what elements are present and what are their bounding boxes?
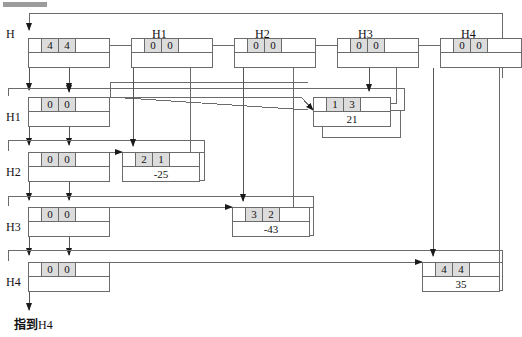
header-H3-i-cell: 0 — [351, 39, 368, 52]
header-H4-lower-row — [440, 53, 522, 68]
left-H2-lower-cell — [29, 167, 109, 181]
data-node-1-3[interactable]: 1 3 21 — [313, 97, 391, 127]
data-node-3-2[interactable]: 3 2 -43 — [232, 207, 310, 237]
left-node-H3[interactable]: 0 0 — [28, 207, 110, 237]
header-node-H1[interactable]: 0 0 — [131, 38, 213, 68]
data-3-2-tail-cell — [280, 208, 309, 221]
left-H3-j-cell: 0 — [59, 208, 76, 221]
header-H1-tail-cell — [179, 39, 212, 52]
header-node-H2[interactable]: 0 0 — [234, 38, 316, 68]
data-3-2-ptr-cell — [233, 208, 246, 221]
data-node-4-4-row: 4 4 — [422, 262, 500, 277]
header-H3-j-cell: 0 — [368, 39, 385, 52]
left-node-H2-row: 0 0 — [28, 152, 110, 167]
left-H2-j-cell: 0 — [59, 153, 76, 166]
header-H-ptr-cell — [29, 39, 42, 52]
header-H2-ptr-cell — [235, 39, 248, 52]
header-H3-tail-cell — [385, 39, 418, 52]
header-node-H4[interactable]: 0 0 — [440, 38, 522, 68]
bottom-label-cn: 指到 — [14, 318, 38, 332]
left-H4-lower-cell — [29, 277, 109, 291]
row-label-H2: H2 — [6, 166, 21, 178]
left-H3-lower-cell — [29, 222, 109, 236]
header-H-i-cell: 4 — [42, 39, 59, 52]
data-3-2-value: -43 — [233, 222, 309, 236]
row-label-H1: H1 — [6, 111, 21, 123]
data-4-4-tail-cell — [470, 263, 499, 276]
header-H2-tail-cell — [282, 39, 315, 52]
data-1-3-j-cell: 3 — [344, 98, 361, 111]
left-node-H1[interactable]: 0 0 — [28, 97, 110, 127]
header-H4-tail-cell — [488, 39, 521, 52]
row-label-H3: H3 — [6, 221, 21, 233]
data-4-4-j-cell: 4 — [453, 263, 470, 276]
left-H3-ptr-cell — [29, 208, 42, 221]
header-H1-lower-row — [131, 53, 213, 68]
data-1-3-i-cell: 1 — [327, 98, 344, 111]
header-H4-j-cell: 0 — [471, 39, 488, 52]
data-2-1-value: -25 — [123, 167, 199, 181]
header-node-H3-row: 0 0 — [337, 38, 419, 53]
data-4-4-i-cell: 4 — [436, 263, 453, 276]
left-node-H3-row: 0 0 — [28, 207, 110, 222]
data-node-1-3-value-row: 21 — [313, 112, 391, 127]
data-4-4-value: 35 — [423, 277, 499, 291]
data-1-3-ptr-cell — [314, 98, 327, 111]
left-node-H2[interactable]: 0 0 — [28, 152, 110, 182]
top-left-marker — [3, 2, 47, 7]
data-2-1-tail-cell — [170, 153, 199, 166]
header-H3-lower-row — [337, 53, 419, 68]
data-1-3-tail-cell — [361, 98, 390, 111]
header-node-H-row: 4 4 — [28, 38, 110, 53]
data-node-3-2-row: 3 2 — [232, 207, 310, 222]
bottom-pointer-label: 指到H4 — [14, 319, 53, 331]
left-node-H4[interactable]: 0 0 — [28, 262, 110, 292]
data-2-1-i-cell: 2 — [136, 153, 153, 166]
left-H3-tail-cell — [76, 208, 109, 221]
data-node-2-1[interactable]: 2 1 -25 — [122, 152, 200, 182]
left-H1-lower-row — [28, 112, 110, 127]
header-H1-lower-cell — [132, 53, 212, 67]
left-H1-j-cell: 0 — [59, 98, 76, 111]
header-H1-j-cell: 0 — [162, 39, 179, 52]
header-H-tail-cell — [76, 39, 109, 52]
header-node-H1-row: 0 0 — [131, 38, 213, 53]
data-3-2-j-cell: 2 — [263, 208, 280, 221]
data-node-1-3-row: 1 3 — [313, 97, 391, 112]
data-2-1-ptr-cell — [123, 153, 136, 166]
data-2-1-j-cell: 1 — [153, 153, 170, 166]
header-H-lower-row — [28, 53, 110, 68]
left-H2-tail-cell — [76, 153, 109, 166]
row-label-H4: H4 — [6, 276, 21, 288]
left-H1-tail-cell — [76, 98, 109, 111]
left-H4-ptr-cell — [29, 263, 42, 276]
header-node-H4-row: 0 0 — [440, 38, 522, 53]
header-H2-lower-row — [234, 53, 316, 68]
data-3-2-i-cell: 3 — [246, 208, 263, 221]
header-H4-lower-cell — [441, 53, 521, 67]
header-H1-i-cell: 0 — [145, 39, 162, 52]
left-H2-lower-row — [28, 167, 110, 182]
header-H-lower-cell — [29, 53, 109, 67]
left-node-H4-row: 0 0 — [28, 262, 110, 277]
data-node-3-2-value-row: -43 — [232, 222, 310, 237]
data-node-2-1-row: 2 1 — [122, 152, 200, 167]
data-node-4-4[interactable]: 4 4 35 — [422, 262, 500, 292]
header-H3-ptr-cell — [338, 39, 351, 52]
header-node-H[interactable]: 4 4 — [28, 38, 110, 68]
header-H2-j-cell: 0 — [265, 39, 282, 52]
caption-H: H — [6, 28, 15, 40]
data-node-2-1-value-row: -25 — [122, 167, 200, 182]
header-H2-i-cell: 0 — [248, 39, 265, 52]
left-H3-lower-row — [28, 222, 110, 237]
bottom-label-en: H4 — [38, 318, 53, 332]
header-H2-lower-cell — [235, 53, 315, 67]
data-4-4-ptr-cell — [423, 263, 436, 276]
header-H1-ptr-cell — [132, 39, 145, 52]
left-H1-i-cell: 0 — [42, 98, 59, 111]
left-H4-j-cell: 0 — [59, 263, 76, 276]
left-H1-lower-cell — [29, 112, 109, 126]
header-node-H3[interactable]: 0 0 — [337, 38, 419, 68]
left-H2-ptr-cell — [29, 153, 42, 166]
